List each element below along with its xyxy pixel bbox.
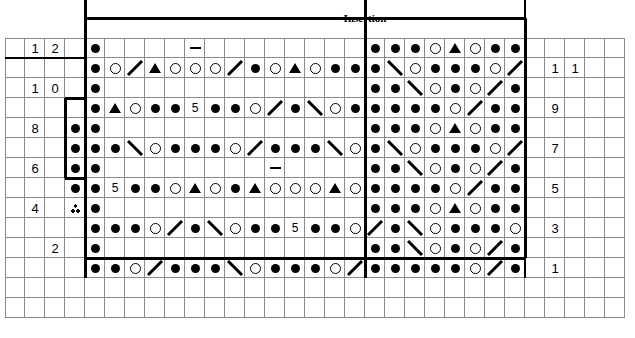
slash-left-icon <box>128 141 142 155</box>
slash-left-icon <box>388 141 402 155</box>
slash-left-icon <box>408 81 422 95</box>
slash-right-icon <box>508 61 522 75</box>
slash-left-icon <box>328 141 342 155</box>
slash-left-icon <box>408 161 422 175</box>
slash-right-icon <box>228 61 242 75</box>
slash-left-icon <box>228 261 242 275</box>
slash-right-icon <box>488 241 502 255</box>
slash-right-icon <box>128 61 142 75</box>
slash-right-icon <box>488 161 502 175</box>
knitting-chart: Insertion 555121086421197531 <box>0 0 635 338</box>
slash-right-icon <box>268 101 282 115</box>
slash-right-icon <box>168 221 182 235</box>
slash-left-icon <box>308 101 322 115</box>
slash-right-icon <box>468 101 482 115</box>
slash-right-icon <box>148 261 162 275</box>
slash-right-icon <box>248 141 262 155</box>
slash-left-icon <box>408 241 422 255</box>
slash-left-icon <box>388 61 402 75</box>
slash-left-icon <box>408 221 422 235</box>
slash-right-icon <box>508 141 522 155</box>
chart-line-overlay <box>0 0 635 338</box>
slash-right-icon <box>488 81 502 95</box>
slash-right-icon <box>368 221 382 235</box>
slash-right-icon <box>468 181 482 195</box>
slash-right-icon <box>488 261 502 275</box>
slash-right-icon <box>348 261 362 275</box>
slash-left-icon <box>208 221 222 235</box>
